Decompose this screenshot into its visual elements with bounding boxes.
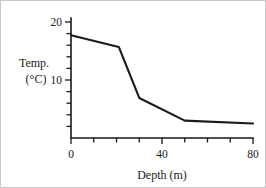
y-tick-label: 20 <box>51 16 63 28</box>
data-series-group <box>71 35 253 123</box>
y-axis-tick-labels: 1020 <box>51 16 63 86</box>
y-axis-title-line1: Temp. <box>19 56 49 70</box>
thermocline-chart-figure: 04080 1020 Depth (m) Temp. (°C) <box>0 0 266 188</box>
x-tick-label: 40 <box>156 148 168 160</box>
x-tick-label: 80 <box>247 148 259 160</box>
x-axis-title: Depth (m) <box>137 168 187 182</box>
axes-group <box>71 18 253 138</box>
x-axis-tick-labels: 04080 <box>68 148 259 160</box>
y-axis-title-line2: (°C) <box>26 72 47 86</box>
chart-plot-area: 04080 1020 Depth (m) Temp. (°C) <box>1 1 266 188</box>
axis-spines <box>71 18 253 138</box>
data-line-temperature-profile <box>71 35 253 123</box>
x-tick-label: 0 <box>68 148 74 160</box>
y-tick-label: 10 <box>51 74 63 86</box>
